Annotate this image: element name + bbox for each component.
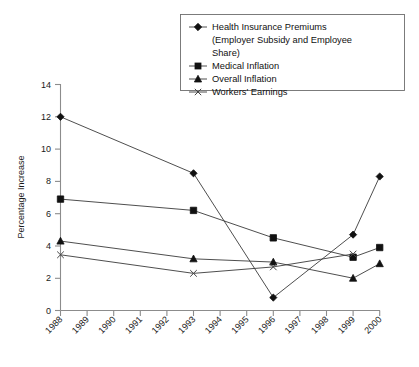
x-tick-label: 1999 (336, 314, 357, 335)
series-layer (57, 113, 383, 301)
square-marker-icon (195, 63, 201, 69)
legend-label: Health Insurance Premiums (212, 22, 327, 32)
diamond-marker-icon (57, 113, 64, 120)
y-tick-label: 8 (46, 176, 51, 186)
chart-container: 14 12 10 8 6 4 2 0 Percentage Increase 1… (0, 0, 419, 367)
data-series (57, 237, 383, 281)
diamond-marker-icon (376, 173, 383, 180)
x-tick-label: 1996 (256, 314, 277, 335)
x-tick-label: 1997 (283, 314, 304, 335)
y-tick-label: 0 (46, 306, 51, 316)
square-marker-icon (190, 207, 196, 213)
x-axis-ticks: 1988 1989 1990 1991 1992 1993 1994 1995 … (43, 311, 383, 336)
x-tick-label: 1991 (123, 314, 144, 335)
y-tick-label: 2 (46, 273, 51, 283)
x-tick-label: 1988 (43, 314, 64, 335)
diamond-marker-icon (190, 170, 197, 177)
legend-label: Share) (212, 48, 240, 58)
x-tick-label: 2000 (362, 314, 383, 335)
data-series (57, 113, 383, 301)
series-line (61, 117, 380, 298)
y-tick-label: 10 (41, 144, 51, 154)
series-line (61, 199, 380, 257)
y-tick-label: 14 (41, 80, 51, 90)
square-marker-icon (270, 235, 276, 241)
legend-label: Overall Inflation (212, 74, 277, 84)
data-series (57, 196, 383, 261)
series-line (61, 241, 380, 278)
triangle-marker-icon (57, 237, 64, 244)
data-series (57, 251, 356, 277)
x-tick-label: 1990 (96, 314, 117, 335)
square-marker-icon (57, 196, 63, 202)
legend-label: Workers' Earnings (212, 87, 288, 97)
y-axis-title: Percentage Increase (16, 155, 26, 238)
legend-label: (Employer Subsidy and Employee (212, 35, 352, 45)
x-tick-label: 1993 (176, 314, 197, 335)
series-line (61, 254, 354, 273)
y-tick-label: 12 (41, 112, 51, 122)
x-tick-label: 1995 (229, 314, 250, 335)
x-tick-label: 1989 (70, 314, 91, 335)
square-marker-icon (377, 244, 383, 250)
line-chart: 14 12 10 8 6 4 2 0 Percentage Increase 1… (0, 0, 419, 367)
square-marker-icon (350, 254, 356, 260)
y-tick-label: 4 (46, 241, 51, 251)
x-tick-label: 1998 (309, 314, 330, 335)
legend-label: Medical Inflation (212, 61, 279, 71)
y-tick-label: 6 (46, 209, 51, 219)
x-tick-label: 1992 (150, 314, 171, 335)
x-tick-label: 1994 (203, 314, 224, 335)
chart-legend: Health Insurance Premiums (Employer Subs… (181, 15, 405, 98)
triangle-marker-icon (376, 260, 383, 267)
